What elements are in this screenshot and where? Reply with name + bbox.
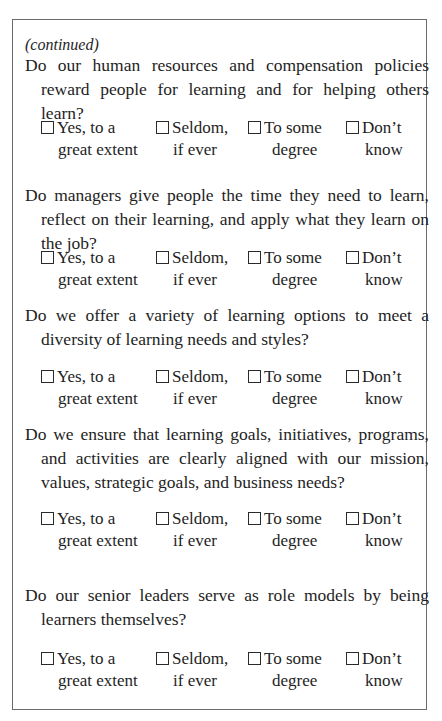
options-q4: Yes, to agreat extent Seldom,if ever To …: [41, 508, 411, 556]
option-dont-know[interactable]: Don’tknow: [346, 508, 403, 552]
checkbox-icon[interactable]: [41, 251, 54, 264]
option-dont-know[interactable]: Don’tknow: [346, 117, 403, 161]
option-dont-know[interactable]: Don’tknow: [346, 366, 403, 410]
option-dont-know[interactable]: Don’tknow: [346, 648, 403, 692]
option-to-some-degree[interactable]: To somedegree: [248, 117, 322, 161]
checkbox-icon[interactable]: [248, 370, 261, 383]
option-to-some-degree[interactable]: To somedegree: [248, 508, 322, 552]
option-yes[interactable]: Yes, to agreat extent: [41, 117, 138, 161]
checkbox-icon[interactable]: [156, 251, 169, 264]
checkbox-icon[interactable]: [156, 652, 169, 665]
checkbox-icon[interactable]: [346, 652, 359, 665]
checkbox-icon[interactable]: [248, 121, 261, 134]
checkbox-icon[interactable]: [41, 512, 54, 525]
checkbox-icon[interactable]: [248, 652, 261, 665]
option-to-some-degree[interactable]: To somedegree: [248, 648, 322, 692]
checkbox-icon[interactable]: [248, 512, 261, 525]
checkbox-icon[interactable]: [248, 251, 261, 264]
continued-label: (continued): [25, 36, 99, 54]
question-3: Do we offer a variety of learning option…: [25, 303, 429, 351]
question-2: Do managers give people the time they ne…: [25, 183, 429, 255]
question-5: Do our senior leaders serve as role mode…: [25, 583, 429, 631]
checkbox-icon[interactable]: [346, 251, 359, 264]
checkbox-icon[interactable]: [346, 512, 359, 525]
checkbox-icon[interactable]: [156, 512, 169, 525]
option-dont-know[interactable]: Don’tknow: [346, 247, 403, 291]
checkbox-icon[interactable]: [41, 370, 54, 383]
option-yes[interactable]: Yes, to agreat extent: [41, 508, 138, 552]
options-q1: Yes, to agreat extent Seldom,if ever To …: [41, 117, 411, 165]
option-seldom[interactable]: Seldom,if ever: [156, 508, 228, 552]
option-seldom[interactable]: Seldom,if ever: [156, 117, 228, 161]
checkbox-icon[interactable]: [346, 121, 359, 134]
option-seldom[interactable]: Seldom,if ever: [156, 648, 228, 692]
checkbox-icon[interactable]: [156, 370, 169, 383]
option-yes[interactable]: Yes, to agreat extent: [41, 648, 138, 692]
option-yes[interactable]: Yes, to agreat extent: [41, 247, 138, 291]
checkbox-icon[interactable]: [346, 370, 359, 383]
option-seldom[interactable]: Seldom,if ever: [156, 366, 228, 410]
option-yes[interactable]: Yes, to agreat extent: [41, 366, 138, 410]
option-to-some-degree[interactable]: To somedegree: [248, 366, 322, 410]
question-1: Do our human resources and compensation …: [25, 53, 429, 125]
checkbox-icon[interactable]: [41, 121, 54, 134]
checkbox-icon[interactable]: [156, 121, 169, 134]
options-q2: Yes, to agreat extent Seldom,if ever To …: [41, 247, 411, 295]
option-to-some-degree[interactable]: To somedegree: [248, 247, 322, 291]
checkbox-icon[interactable]: [41, 652, 54, 665]
options-q5: Yes, to agreat extent Seldom,if ever To …: [41, 648, 411, 696]
question-4: Do we ensure that learning goals, initia…: [25, 422, 429, 494]
option-seldom[interactable]: Seldom,if ever: [156, 247, 228, 291]
options-q3: Yes, to agreat extent Seldom,if ever To …: [41, 366, 411, 414]
